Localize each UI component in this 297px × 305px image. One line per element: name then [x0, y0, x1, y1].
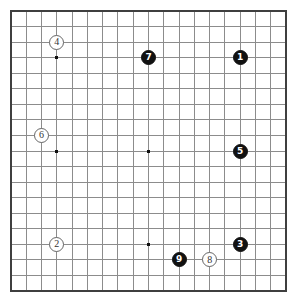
stone-6-white[interactable]: 6 — [34, 128, 49, 143]
stone-7-black[interactable]: 7 — [141, 50, 156, 65]
stone-5-black[interactable]: 5 — [233, 144, 248, 159]
stone-1-black[interactable]: 1 — [233, 50, 248, 65]
stone-8-white[interactable]: 8 — [202, 252, 217, 267]
stones-layer: 123456789 — [0, 0, 297, 305]
go-board-diagram: 123456789 — [0, 0, 297, 305]
stone-2-white[interactable]: 2 — [49, 237, 64, 252]
stone-3-black[interactable]: 3 — [233, 237, 248, 252]
stone-4-white[interactable]: 4 — [49, 35, 64, 50]
stone-9-black[interactable]: 9 — [172, 252, 187, 267]
